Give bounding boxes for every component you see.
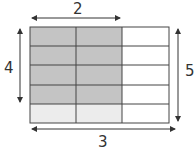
right-label: 5 <box>185 64 195 79</box>
grid-diagram <box>0 0 195 153</box>
left-label: 4 <box>4 61 14 76</box>
top-label: 2 <box>73 2 83 17</box>
bottom-label: 3 <box>98 135 108 150</box>
